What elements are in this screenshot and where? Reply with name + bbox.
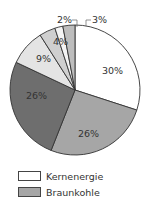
slice-label: 4%	[53, 36, 68, 47]
legend-label: Kernenergie	[46, 171, 103, 182]
legend-swatch	[18, 187, 41, 197]
slice-label: 3%	[92, 14, 107, 25]
legend-item-kernenergie: Kernenergie	[18, 168, 103, 184]
slice-label: 2%	[57, 14, 72, 25]
pie-chart: 30%26%26%9%4%2%3%	[0, 0, 143, 165]
slice-label: 9%	[36, 53, 51, 64]
legend-label: Braunkohle	[46, 187, 100, 198]
legend-swatch	[18, 171, 41, 181]
leader-line	[86, 20, 91, 26]
slice-label: 26%	[26, 90, 47, 101]
legend: Kernenergie Braunkohle	[18, 168, 103, 197]
legend-item-braunkohle: Braunkohle	[18, 184, 103, 197]
slice-label: 26%	[78, 128, 99, 139]
slice-label: 30%	[102, 65, 123, 76]
